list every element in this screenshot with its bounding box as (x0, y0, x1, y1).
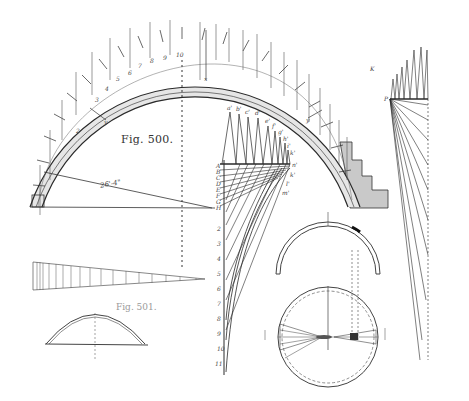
axis-label-y-left: y (104, 119, 107, 125)
scale-label: 5 (217, 271, 221, 277)
axis-label-x: x (204, 76, 207, 82)
arch-number: 7 (138, 63, 142, 69)
force-label: n' (292, 162, 298, 168)
arch-number: 4 (105, 86, 109, 92)
arch-number: 5 (116, 76, 120, 82)
main-arch (30, 20, 388, 215)
small-arch (45, 313, 148, 360)
arch-number: 10 (176, 52, 184, 58)
arch-number: 3 (95, 97, 99, 103)
force-label: e' (265, 118, 270, 124)
force-left-label: H (216, 205, 221, 211)
force-label: b' (236, 106, 242, 112)
springing-line (30, 207, 215, 208)
force-label: k' (290, 150, 295, 156)
scale-label: 2 (217, 226, 221, 232)
pole-label: P (384, 96, 388, 102)
arch-number: 8 (150, 58, 154, 64)
scale-label: 11 (215, 361, 223, 367)
scale-label: 9 (217, 331, 221, 337)
axis-label-k: K (370, 66, 374, 72)
arch-number: 2 (76, 128, 80, 134)
arch-number: 6 (128, 70, 132, 76)
force-label: f' (272, 123, 276, 129)
intrados (42, 97, 348, 207)
figure-caption-main: Fig. 500. (121, 133, 173, 146)
scale-label: 8 (217, 316, 221, 322)
scale-label: 3 (217, 241, 221, 247)
voussoir-joints (33, 27, 351, 186)
plan-circle (265, 250, 385, 387)
engineering-drawing (0, 0, 469, 401)
figure-caption-secondary: Fig. 501. (116, 302, 157, 312)
force-label: m' (282, 190, 289, 196)
middle-line (36, 92, 354, 207)
scale-label: 6 (217, 286, 221, 292)
right-fan (390, 47, 428, 360)
taper-diagram (33, 262, 205, 290)
force-label: l' (286, 181, 290, 187)
force-label: d' (255, 110, 261, 116)
force-polygon (220, 112, 290, 375)
force-label: a' (227, 105, 232, 111)
scale-label: 7 (217, 301, 221, 307)
force-label: c' (245, 109, 250, 115)
arch-number: 9 (163, 55, 167, 61)
semicircle-ring (276, 212, 380, 274)
dimension-line (44, 172, 212, 208)
scale-label: 4 (217, 256, 221, 262)
scale-label: 10 (217, 346, 225, 352)
force-label: k' (290, 172, 295, 178)
load-verticals (40, 20, 347, 215)
axis-label-y-right: y (306, 117, 309, 123)
